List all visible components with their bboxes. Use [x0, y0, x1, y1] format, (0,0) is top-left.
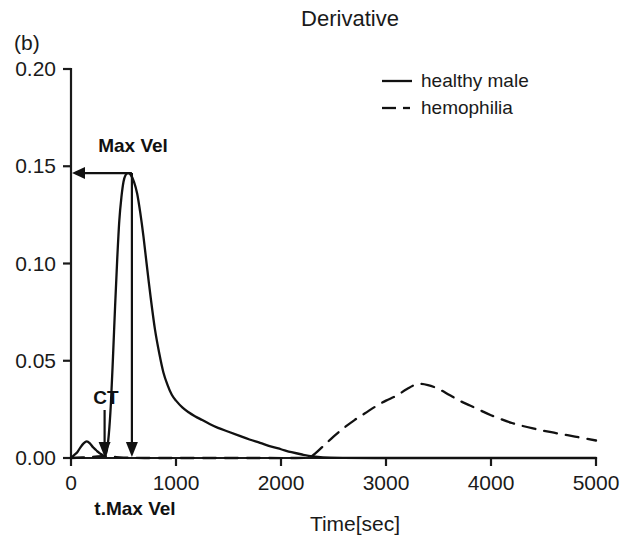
chart-page: (b) Derivative 0.000.050.100.150.20 0100… [0, 0, 625, 554]
axes [71, 69, 596, 458]
panel-label: (b) [14, 31, 40, 54]
x-tick-label: 4000 [468, 471, 515, 494]
max-vel-arrow-head [72, 167, 85, 179]
x-tick-label: 3000 [363, 471, 410, 494]
annotations: Max Vel CT t.Max Vel [72, 135, 176, 519]
legend: healthy male hemophilia [382, 70, 529, 118]
x-tick-label: 1000 [153, 471, 200, 494]
x-tick-label: 2000 [258, 471, 305, 494]
x-tick-label: 5000 [573, 471, 620, 494]
x-tick-label: 0 [65, 471, 77, 494]
y-tick-label: 0.05 [15, 349, 56, 372]
t-max-vel-annotation: t.Max Vel [94, 173, 175, 519]
series-path-healthy-male [71, 173, 596, 458]
y-tick-label: 0.15 [15, 154, 56, 177]
ct-label: CT [93, 387, 119, 408]
legend-item-hemophilia[interactable]: hemophilia [382, 97, 513, 118]
max-vel-annotation: Max Vel [72, 135, 168, 179]
ct-annotation: CT [93, 387, 119, 457]
legend-item-healthy-male[interactable]: healthy male [382, 70, 529, 91]
legend-label-hemophilia: hemophilia [421, 97, 513, 118]
y-tick-label: 0.00 [15, 446, 56, 469]
x-axis-title: Time[sec] [310, 512, 400, 535]
t-max-vel-arrow-head [126, 442, 138, 457]
max-vel-label: Max Vel [98, 135, 168, 156]
chart-title: Derivative [301, 6, 399, 31]
y-axis-ticks: 0.000.050.100.150.20 [15, 57, 71, 469]
series-path-hemophilia [71, 384, 596, 458]
x-axis-ticks: 010002000300040005000 [65, 458, 619, 494]
y-tick-label: 0.10 [15, 252, 56, 275]
t-max-vel-label: t.Max Vel [94, 498, 175, 519]
y-tick-label: 0.20 [15, 57, 56, 80]
series-group [71, 173, 596, 458]
legend-label-healthy-male: healthy male [421, 70, 529, 91]
derivative-chart: (b) Derivative 0.000.050.100.150.20 0100… [0, 0, 625, 554]
